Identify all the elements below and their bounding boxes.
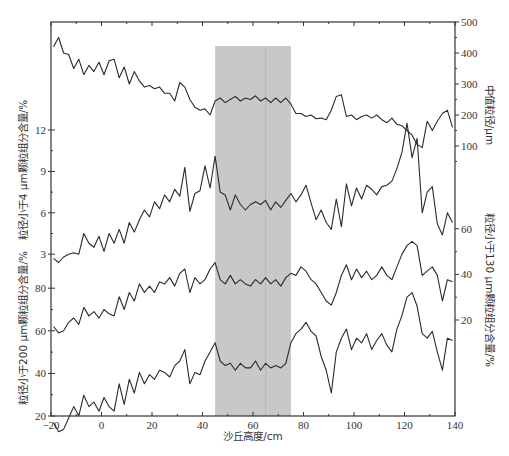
tick-label: 40 [197, 419, 209, 431]
tick-label: 400 [461, 47, 478, 59]
tick-label: 60 [461, 223, 473, 235]
tick-label: 20 [35, 410, 47, 422]
tick-label: 500 [461, 16, 478, 28]
tick-label: 100 [346, 419, 363, 431]
y-axis-title-lt4: 粒径小于4 μm颗粒组分含量/% [17, 100, 29, 240]
tick-label: 80 [298, 419, 310, 431]
tick-label: 20 [461, 314, 473, 326]
y-axis-title-lt130: 粒径小于130 μm颗粒组分含量/% [484, 213, 496, 367]
tick-label: 100 [461, 140, 478, 152]
y-axis-title-median: 中值粒径/μm [484, 85, 496, 145]
tick-label: 12 [35, 124, 46, 136]
tick-label: 6 [41, 207, 47, 219]
tick-label: 300 [461, 78, 478, 90]
tick-label: 20 [147, 419, 159, 431]
y-axis-title-lt200: 粒径小于200 μm颗粒组分含量/% [17, 251, 29, 405]
tick-label: 40 [35, 367, 47, 379]
tick-label: 120 [396, 419, 413, 431]
tick-label: 40 [461, 268, 473, 280]
tick-label: 0 [99, 419, 105, 431]
tick-label: 80 [35, 282, 47, 294]
x-axis-title: 沙丘高度/cm [223, 430, 283, 442]
tick-label: 60 [35, 325, 47, 337]
tick-label: 9 [41, 165, 47, 177]
chart: −200204060801001201401002003004005003691… [0, 0, 509, 456]
tick-label: 140 [447, 419, 464, 431]
tick-label: 200 [461, 109, 478, 121]
tick-label: 3 [41, 248, 47, 260]
